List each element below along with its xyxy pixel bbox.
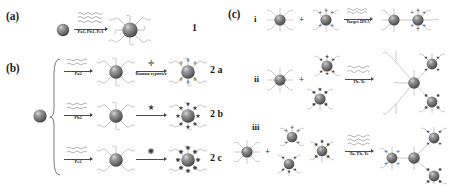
svg-text:✛: ✛ xyxy=(296,128,300,133)
ssdna-squiggle-group xyxy=(65,96,91,114)
ssdna-squiggle-group xyxy=(346,132,373,150)
svg-text:★: ★ xyxy=(426,129,430,134)
svg-text:✺: ✺ xyxy=(192,148,197,155)
panel-c-row-1-reactant-2a: ★ ★★ ★★ ★ xyxy=(310,49,344,83)
svg-text:★: ★ xyxy=(293,155,297,160)
svg-text:★: ★ xyxy=(319,69,323,74)
panel-c-row-0-assembly-dimer: ✛✛ ✛✛ ✛✛ xyxy=(374,2,452,38)
panel-c-row-2-assembly-tetramer: ✛✛ ✛✛ ★★ ★★ ✺✺ ✺✺ xyxy=(372,118,454,185)
svg-text:✺: ✺ xyxy=(178,164,183,171)
panel-c-row-2-plus: + xyxy=(265,146,270,156)
svg-text:✛: ✛ xyxy=(296,140,300,145)
panel-c-row-2-target-label: Ta, Tb, Tc xyxy=(349,151,368,156)
svg-text:✺: ✺ xyxy=(436,105,440,110)
panel-a-reaction-arrow: Pa1, Pb1, Pc1 xyxy=(74,22,107,36)
panel-c-row-0-numeral: i xyxy=(254,14,257,24)
panel-c-row-0-arrow: Ta Target DNA xyxy=(344,13,372,25)
svg-text:✺: ✺ xyxy=(324,90,328,95)
panel-b-row-2-probe-arrow: Pc2 xyxy=(64,152,92,165)
panel-c-row-1-assembly-trimer: ★★ ★★ ✺✺ ✺✺ xyxy=(374,48,454,118)
panel-c-row-1-reactant-2b: ✺ ✺✺ ✺✺ xyxy=(303,82,337,116)
svg-text:★: ★ xyxy=(175,112,180,119)
panel-b-row-1-product-label: 2 b xyxy=(210,108,223,119)
svg-text:✛: ✛ xyxy=(330,23,334,28)
svg-text:✛: ✛ xyxy=(410,10,414,15)
panel-b-row-2-reporter-arrow: ✺ xyxy=(136,152,166,165)
panel-b-row-1-reporter-icon: ★ xyxy=(147,96,154,114)
flower-reporter-glyph: ✺ xyxy=(148,147,155,156)
svg-text:✛: ✛ xyxy=(186,79,191,85)
panel-b-row-2-reporter-icon: ✺ xyxy=(148,140,155,158)
panel-c-row-1-reactant-1 xyxy=(263,63,297,97)
svg-text:✛: ✛ xyxy=(422,23,426,28)
svg-text:✛: ✛ xyxy=(179,60,184,66)
panel-b-row-0-dna-nanoparticle xyxy=(96,52,136,92)
svg-text:✛: ✛ xyxy=(330,10,334,15)
panel-b-row-2-product-nanoparticle: ✺✺ ✺✺ ✺✺ ✺✺ xyxy=(168,140,208,180)
svg-text:★: ★ xyxy=(178,120,183,127)
panel-b-row-0-reporter-icon: ✛ xyxy=(148,52,155,70)
panel-c-row-0-plus: + xyxy=(299,14,304,24)
svg-text:✛: ✛ xyxy=(396,149,400,154)
svg-text:★: ★ xyxy=(319,57,323,62)
svg-text:★: ★ xyxy=(325,71,329,76)
svg-text:✛: ✛ xyxy=(416,26,420,31)
svg-text:✺: ✺ xyxy=(312,90,316,95)
ssdna-squiggle-group xyxy=(345,7,371,14)
svg-text:★: ★ xyxy=(331,69,335,74)
svg-text:✺: ✺ xyxy=(185,167,190,174)
panel-c-row-1-numeral: ii xyxy=(254,74,259,84)
svg-text:★: ★ xyxy=(281,155,285,160)
panel-b-row-1-reporter-arrow: ★ xyxy=(136,108,166,121)
svg-text:✛: ✛ xyxy=(410,23,414,28)
svg-text:✺: ✺ xyxy=(185,144,190,151)
svg-text:✛: ✛ xyxy=(318,10,322,15)
svg-text:✺: ✺ xyxy=(426,167,430,172)
panel-c-row-1-target-label: Tb, Tc xyxy=(353,79,365,84)
svg-text:★: ★ xyxy=(178,104,183,111)
svg-text:✺: ✺ xyxy=(426,179,430,184)
panel-c-row-0-target-label: Target DNA xyxy=(346,19,369,24)
panel-b-row-2-product-label: 2 c xyxy=(210,152,222,163)
panel-a-product-label: 1 xyxy=(192,22,197,33)
svg-text:✛: ✛ xyxy=(318,23,322,28)
svg-text:✺: ✺ xyxy=(326,142,330,147)
svg-text:✛: ✛ xyxy=(193,76,198,82)
svg-text:✛: ✛ xyxy=(193,60,198,66)
panel-b-row-0-probe-label: Pa2 xyxy=(74,71,81,76)
panel-c-row-2-reactant-1 xyxy=(230,135,264,169)
panel-a-dna-nanoparticle xyxy=(108,8,152,52)
svg-text:✛: ✛ xyxy=(284,128,288,133)
svg-text:✛: ✛ xyxy=(324,8,328,13)
svg-text:✺: ✺ xyxy=(438,167,442,172)
svg-text:★: ★ xyxy=(293,167,297,172)
ssdna-squiggle-group xyxy=(65,52,91,70)
svg-text:✺: ✺ xyxy=(436,93,440,98)
svg-text:✺: ✺ xyxy=(195,156,200,163)
svg-text:✺: ✺ xyxy=(424,105,428,110)
panel-c-row-2-numeral: iii xyxy=(252,122,260,132)
svg-text:★: ★ xyxy=(436,67,440,72)
star-reporter-glyph: ★ xyxy=(147,103,154,112)
ssdna-squiggle-group xyxy=(65,140,91,158)
panel-b-row-0-probe-arrow: Pa2 xyxy=(64,64,92,77)
svg-text:★: ★ xyxy=(438,141,442,146)
svg-text:✺: ✺ xyxy=(312,102,316,107)
panel-b-bare-nanoparticle xyxy=(31,107,49,125)
svg-text:✛: ✛ xyxy=(179,76,184,82)
panel-b-row-1-product-nanoparticle: ★★ ★★ ★★ ★★ xyxy=(168,96,208,136)
svg-text:✛: ✛ xyxy=(284,140,288,145)
svg-text:★: ★ xyxy=(185,100,190,107)
plus-cross-reporter-glyph: ✛ xyxy=(148,59,155,68)
svg-text:✺: ✺ xyxy=(326,154,330,159)
svg-text:✛: ✛ xyxy=(186,57,191,63)
panel-a-bare-nanoparticle xyxy=(55,22,71,38)
figure-canvas: (a) Pa1, Pb1, Pc1 xyxy=(0,0,454,185)
svg-text:✺: ✺ xyxy=(320,139,324,144)
svg-text:✛: ✛ xyxy=(396,161,400,166)
panel-c-row-2-reactant-2b: ★ ★★ ★★ xyxy=(273,148,305,180)
svg-text:★: ★ xyxy=(281,167,285,172)
svg-text:★: ★ xyxy=(438,129,442,134)
svg-text:✺: ✺ xyxy=(318,87,322,92)
svg-text:✺: ✺ xyxy=(324,102,328,107)
